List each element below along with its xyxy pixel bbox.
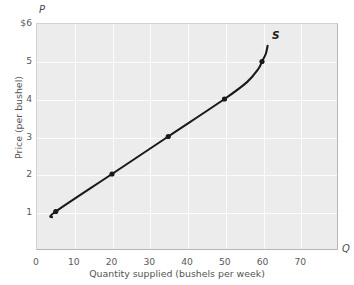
plot-area bbox=[36, 23, 338, 250]
y-tick-label: $6 bbox=[6, 17, 32, 28]
supply-curve-line bbox=[50, 46, 267, 217]
y-tick-label: 1 bbox=[6, 206, 32, 217]
x-tick-label: 40 bbox=[176, 256, 198, 267]
data-point-marker bbox=[53, 209, 58, 214]
x-axis-symbol: Q bbox=[342, 243, 350, 254]
x-tick-label: 10 bbox=[63, 256, 85, 267]
series-label-supply: S bbox=[272, 29, 280, 41]
data-point-marker bbox=[166, 134, 171, 139]
y-axis-title: Price (per bushel) bbox=[13, 48, 24, 188]
data-point-marker bbox=[109, 171, 114, 176]
x-tick-label: 60 bbox=[252, 256, 274, 267]
x-tick-label: 20 bbox=[101, 256, 123, 267]
y-axis-symbol: P bbox=[39, 4, 45, 15]
data-point-marker bbox=[222, 96, 227, 101]
x-axis-title: Quantity supplied (bushels per week) bbox=[0, 268, 354, 279]
x-tick-label: 30 bbox=[138, 256, 160, 267]
x-tick-label: 50 bbox=[214, 256, 236, 267]
data-point-marker bbox=[259, 59, 264, 64]
supply-curve-svg bbox=[37, 24, 337, 249]
x-tick-label: 70 bbox=[289, 256, 311, 267]
supply-curve-chart: P Q $654321 010203040506070 S Price (per… bbox=[0, 0, 354, 285]
x-tick-label: 0 bbox=[25, 256, 47, 267]
